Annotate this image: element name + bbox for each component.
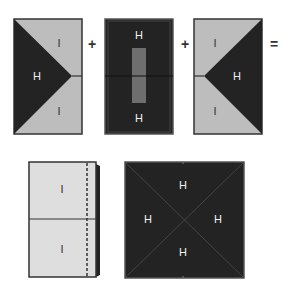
panel2-label-top: H: [135, 30, 143, 41]
panel2-label-bot: H: [135, 113, 143, 124]
panel-result-square: H H H H: [124, 161, 245, 279]
panel4-label-bot: I: [60, 244, 63, 255]
panel1-label-bot: I: [57, 106, 60, 117]
left-piece-diagram: [13, 18, 83, 135]
plus-sign-2: +: [181, 36, 189, 52]
plus-sign-1: +: [88, 36, 96, 52]
panel3-label-bot: I: [213, 106, 216, 117]
panel4-label-top: I: [60, 184, 63, 195]
equals-sign: =: [270, 36, 278, 52]
panel-right-piece: I H I: [193, 18, 263, 135]
panel5-label-right: H: [214, 214, 222, 225]
panel-left-piece: I H I: [13, 18, 83, 135]
panel5-label-bot: H: [179, 247, 187, 258]
panel1-label-mid: H: [33, 71, 41, 82]
panel5-label-left: H: [144, 214, 152, 225]
panel3-label-top: I: [213, 38, 216, 49]
panel5-label-top: H: [179, 180, 187, 191]
panel-folded-piece: I I: [28, 161, 100, 279]
panel1-label-top: I: [57, 38, 60, 49]
panel3-label-mid: H: [233, 71, 241, 82]
panel-middle-piece: H H: [104, 18, 174, 135]
right-piece-diagram: [193, 18, 263, 135]
folded-piece-diagram: [28, 161, 100, 279]
